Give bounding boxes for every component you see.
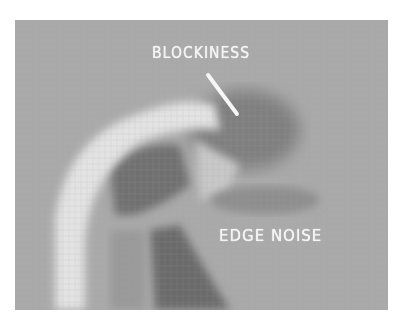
artifact-image: BLOCKINESS EDGE NOISE (15, 20, 388, 310)
edge-noise-label: EDGE NOISE (219, 225, 322, 245)
blockiness-label: BLOCKINESS (152, 43, 250, 61)
pixelated-scene (15, 20, 388, 310)
